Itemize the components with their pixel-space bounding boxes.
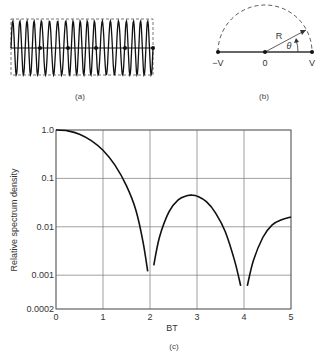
- y-tick-label: 0.01: [36, 222, 54, 232]
- grid: [56, 130, 291, 309]
- curve-segment: [56, 130, 148, 271]
- x-axis-label: BT: [166, 323, 178, 333]
- x-tick-labels: 012345: [53, 312, 293, 322]
- panel-b: −V 0 V R θ (b): [212, 5, 315, 101]
- y-tick-label: 0.0002: [26, 304, 54, 314]
- point-neg-v: [216, 50, 220, 54]
- y-tick-label: 0.001: [31, 270, 54, 280]
- y-tick-label: 1.0: [41, 125, 54, 135]
- y-tick-labels: 1.00.10.010.0010.0002: [26, 125, 54, 314]
- label-zero: 0: [262, 58, 267, 68]
- x-tick-label: 5: [288, 312, 293, 322]
- y-axis-label: Relative spectrum density: [9, 168, 19, 272]
- label-r: R: [276, 31, 283, 41]
- angle-arrow-icon: [294, 38, 299, 43]
- phase-circle-arc: [218, 5, 312, 52]
- x-tick-label: 3: [194, 312, 199, 322]
- x-tick-label: 4: [241, 312, 246, 322]
- panel-c-chart: 012345 1.00.10.010.0010.0002 BT Relative…: [9, 125, 294, 351]
- y-tick-label: 0.1: [41, 173, 54, 183]
- point-zero: [263, 50, 267, 54]
- caption-a: (a): [75, 92, 85, 101]
- panel-a: (a): [11, 19, 155, 101]
- x-tick-label: 0: [53, 312, 58, 322]
- curve-segment: [247, 217, 291, 286]
- spectrum-curve: [56, 130, 291, 286]
- point-v: [310, 50, 314, 54]
- radius-vector: [265, 30, 306, 52]
- caption-b: (b): [259, 92, 269, 101]
- x-tick-label: 2: [147, 312, 152, 322]
- figure: (a) −V 0 V R θ (b) 012345 1.00.10.010.00…: [0, 0, 319, 358]
- label-neg-v: −V: [212, 58, 223, 68]
- caption-c: (c): [169, 342, 179, 351]
- x-tick-label: 1: [100, 312, 105, 322]
- label-v: V: [309, 58, 315, 68]
- label-theta: θ: [287, 41, 292, 51]
- plot-frame: [56, 130, 291, 309]
- fsk-waveform: [11, 21, 153, 75]
